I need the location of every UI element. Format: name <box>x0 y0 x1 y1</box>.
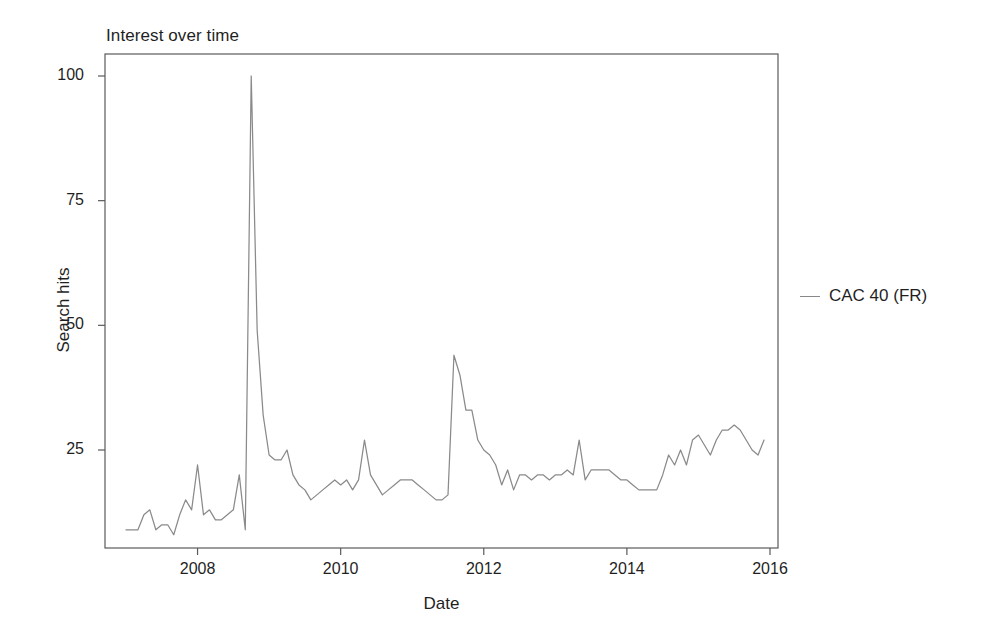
legend-entry-label: CAC 40 (FR) <box>829 286 927 306</box>
x-tick-label: 2008 <box>163 560 233 578</box>
y-tick-label: 100 <box>36 67 84 83</box>
y-tick-label: 25 <box>36 441 84 457</box>
legend: CAC 40 (FR) <box>800 286 927 306</box>
plot-area <box>0 0 982 628</box>
y-axis-label: Search hits <box>54 230 74 390</box>
data-series-group <box>126 76 764 535</box>
plot-title: Interest over time <box>106 26 239 46</box>
legend-line-swatch <box>800 296 820 297</box>
interest-over-time-chart: Interest over time Search hits Date 2550… <box>0 0 982 628</box>
data-series-line <box>126 76 764 535</box>
tick-marks <box>98 76 770 555</box>
x-axis-label: Date <box>105 594 778 614</box>
x-tick-label: 2012 <box>449 560 519 578</box>
x-tick-label: 2010 <box>306 560 376 578</box>
plot-frame <box>105 54 778 548</box>
y-tick-label: 50 <box>36 316 84 332</box>
y-tick-label: 75 <box>36 192 84 208</box>
x-tick-label: 2016 <box>735 560 805 578</box>
x-tick-label: 2014 <box>592 560 662 578</box>
